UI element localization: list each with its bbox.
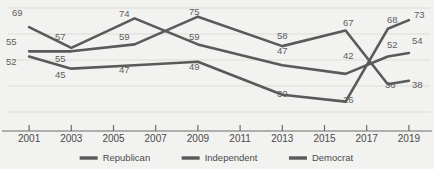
value-label: 47 (277, 45, 288, 56)
value-label: 54 (412, 35, 423, 46)
value-label: 45 (55, 69, 66, 80)
value-label: 42 (343, 50, 354, 61)
value-label: 38 (412, 79, 423, 90)
value-label: 57 (55, 31, 66, 42)
legend-label-democrat[interactable]: Democrat (312, 152, 354, 163)
value-label: 73 (414, 9, 425, 20)
value-label: 58 (277, 30, 288, 41)
x-tick-label-2009: 2009 (187, 133, 210, 144)
x-tick-label-2007: 2007 (145, 133, 168, 144)
legend-label-independent[interactable]: Independent (205, 152, 258, 163)
x-tick-label-2015: 2015 (313, 133, 336, 144)
x-tick-label-2011: 2011 (229, 133, 251, 144)
value-label: 68 (387, 14, 398, 25)
value-label: 74 (119, 8, 130, 19)
value-label: 67 (343, 17, 354, 28)
value-label: 30 (277, 88, 288, 99)
x-tick-label-2005: 2005 (102, 133, 125, 144)
line-chart: 6955525755457459477559495847306742266852… (0, 0, 434, 169)
value-label: 52 (6, 56, 17, 67)
x-axis-tick-labels: 2001200320052007200920112013201520172019 (18, 133, 420, 144)
value-label: 36 (385, 79, 396, 90)
value-label: 26 (343, 94, 354, 105)
x-tick-label-2013: 2013 (271, 133, 294, 144)
value-label: 49 (189, 61, 200, 72)
x-tick-label-2001: 2001 (18, 133, 41, 144)
x-tick-label-2017: 2017 (356, 133, 379, 144)
value-label: 69 (12, 7, 23, 18)
value-label: 55 (6, 36, 17, 47)
value-label: 59 (119, 31, 130, 42)
value-label: 59 (189, 31, 200, 42)
data-value-labels: 6955525755457459477559495847306742266852… (6, 6, 425, 105)
x-tick-label-2019: 2019 (398, 133, 421, 144)
x-axis (2, 125, 432, 131)
value-label: 55 (55, 53, 66, 64)
chart-legend: RepublicanIndependentDemocrat (80, 152, 354, 163)
x-tick-label-2003: 2003 (60, 133, 83, 144)
value-label: 75 (189, 6, 200, 17)
value-label: 47 (119, 64, 130, 75)
chart-canvas: 6955525755457459477559495847306742266852… (0, 0, 434, 169)
value-label: 52 (387, 39, 398, 50)
legend-label-republican[interactable]: Republican (103, 152, 151, 163)
